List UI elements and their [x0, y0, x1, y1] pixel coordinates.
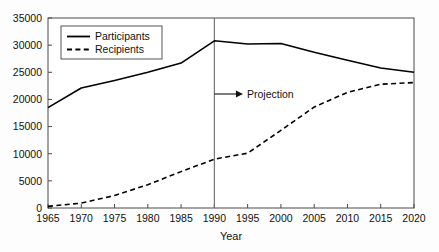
- x-tick-label: 1990: [203, 212, 227, 224]
- y-tick-label: 5000: [19, 175, 43, 187]
- legend-label-recipients: Recipients: [95, 43, 144, 55]
- y-axis-ticks: 05000100001500020000250003000035000: [13, 12, 52, 214]
- projection-annotation-label: Projection: [247, 88, 294, 100]
- x-tick-label: 1975: [103, 212, 127, 224]
- legend-label-participants: Participants: [95, 30, 150, 42]
- y-tick-label: 15000: [13, 120, 42, 132]
- x-tick-label: 2020: [402, 212, 426, 224]
- x-tick-label: 2000: [269, 212, 293, 224]
- line-chart: 05000100001500020000250003000035000 1965…: [0, 0, 439, 252]
- y-tick-label: 25000: [13, 66, 42, 78]
- x-axis-title: Year: [220, 230, 243, 242]
- x-tick-label: 1965: [36, 212, 60, 224]
- y-tick-label: 30000: [13, 39, 42, 51]
- y-tick-label: 20000: [13, 93, 42, 105]
- x-tick-label: 2010: [336, 212, 360, 224]
- chart-legend: Participants Recipients: [61, 26, 162, 59]
- x-tick-label: 1985: [169, 212, 193, 224]
- x-tick-label: 1995: [236, 212, 260, 224]
- chart-canvas: 05000100001500020000250003000035000 1965…: [0, 0, 439, 252]
- y-tick-label: 10000: [13, 148, 42, 160]
- x-tick-label: 1970: [70, 212, 94, 224]
- x-tick-label: 1980: [136, 212, 160, 224]
- y-tick-label: 35000: [13, 12, 42, 24]
- x-tick-label: 2005: [303, 212, 327, 224]
- x-tick-label: 2015: [369, 212, 393, 224]
